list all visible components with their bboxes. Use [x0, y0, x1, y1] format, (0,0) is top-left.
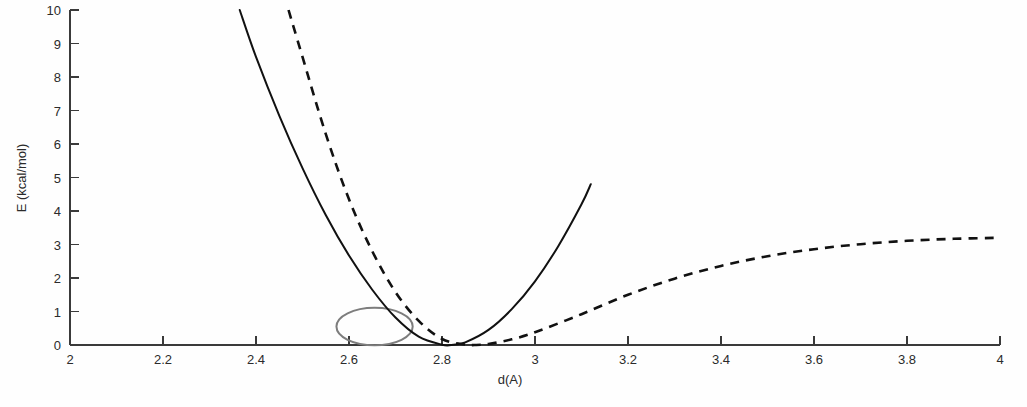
x-tick-label: 3.6 — [805, 352, 823, 367]
y-tick-label: 0 — [54, 338, 61, 353]
x-tick-label: 2.8 — [433, 352, 451, 367]
x-tick-label: 2.2 — [154, 352, 172, 367]
crossing-region-highlight-ellipse — [336, 308, 412, 346]
y-tick-label: 8 — [54, 70, 61, 85]
y-tick-label: 2 — [54, 271, 61, 286]
figure-panel: 2 2.2 2.4 2.6 2.8 3 3.2 3.4 3.6 3.8 4 0 — [0, 0, 1027, 407]
x-tick-group: 2 2.2 2.4 2.6 2.8 3 3.2 3.4 3.6 3.8 4 — [66, 336, 1003, 367]
x-tick-label: 3 — [531, 352, 538, 367]
y-tick-group: 0 1 2 3 4 5 6 7 8 9 10 — [47, 3, 79, 353]
y-tick-label: 9 — [54, 37, 61, 52]
x-tick-label: 3.2 — [619, 352, 637, 367]
x-tick-label: 2 — [66, 352, 73, 367]
y-tick-label: 4 — [54, 204, 61, 219]
y-tick-label: 7 — [54, 104, 61, 119]
x-tick-label: 2.6 — [340, 352, 358, 367]
y-tick-label: 5 — [54, 171, 61, 186]
y-axis-title: E (kcal/mol) — [14, 144, 29, 213]
y-tick-label: 6 — [54, 137, 61, 152]
potential-energy-chart: 2 2.2 2.4 2.6 2.8 3 3.2 3.4 3.6 3.8 4 0 — [0, 0, 1027, 407]
x-tick-label: 4 — [996, 352, 1003, 367]
x-tick-label: 3.4 — [712, 352, 730, 367]
x-tick-label: 3.8 — [898, 352, 916, 367]
y-tick-label: 1 — [54, 305, 61, 320]
axes-group — [70, 10, 1000, 345]
morse-potential-curve — [289, 10, 1000, 345]
x-tick-label: 2.4 — [247, 352, 265, 367]
harmonic-potential-curve — [240, 10, 591, 346]
y-tick-label: 10 — [47, 3, 61, 18]
y-tick-label: 3 — [54, 238, 61, 253]
x-axis-title: d(A) — [498, 372, 523, 387]
